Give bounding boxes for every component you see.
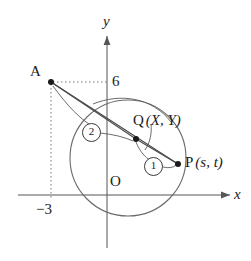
point-dot-q xyxy=(133,136,139,142)
point-dot-a xyxy=(48,79,54,85)
point-label-q-name: Q xyxy=(133,112,144,128)
leader-curve-marker-1 xyxy=(163,165,176,168)
point-label-p: P(s, t) xyxy=(185,155,223,170)
point-label-q-coords: (X, Y) xyxy=(146,112,181,128)
origin-label: O xyxy=(110,174,121,189)
ratio-marker-2: 2 xyxy=(82,123,101,142)
x-tick-label-minus3: −3 xyxy=(36,202,52,217)
point-label-p-coords: (s, t) xyxy=(195,154,223,170)
x-axis-label: x xyxy=(234,187,241,202)
point-label-p-name: P xyxy=(185,154,193,170)
point-label-a: A xyxy=(30,64,41,79)
point-dot-p xyxy=(175,161,181,167)
ratio-marker-1: 1 xyxy=(144,157,163,176)
point-label-q: Q(X, Y) xyxy=(133,113,181,128)
y-tick-label-6: 6 xyxy=(112,74,120,89)
y-axis-label: y xyxy=(103,14,110,29)
geometry-canvas xyxy=(0,0,251,261)
y-axis xyxy=(104,36,111,248)
x-axis xyxy=(18,192,230,199)
geometry-figure: y x O 6 −3 A Q(X, Y) P(s, t) 1 2 xyxy=(0,0,251,261)
